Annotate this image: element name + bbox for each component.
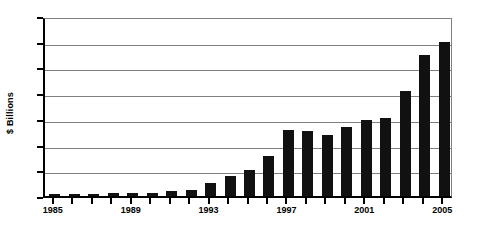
x-axis-tick-mark	[91, 198, 93, 204]
x-axis-tick-label: 1985	[31, 205, 75, 215]
x-axis-tick-mark	[149, 198, 151, 204]
bar	[341, 127, 352, 196]
x-axis-tick-mark	[52, 198, 54, 204]
x-axis-tick-mark	[285, 198, 287, 204]
bar	[283, 130, 294, 196]
x-axis-tick-mark	[383, 198, 385, 204]
x-axis-tick-mark	[227, 198, 229, 204]
x-axis-tick-label: 2005	[420, 205, 464, 215]
bar	[108, 193, 119, 196]
x-axis-tick-label: 1993	[187, 205, 231, 215]
x-axis-tick-mark	[188, 198, 190, 204]
bar	[419, 55, 430, 196]
x-axis-tick-label: 1997	[264, 205, 308, 215]
gridline	[45, 45, 451, 46]
x-axis-tick-mark	[363, 198, 365, 204]
plot-area	[43, 18, 452, 198]
x-axis-tick-mark	[422, 198, 424, 204]
bar	[205, 183, 216, 196]
x-axis-tick-mark	[71, 198, 73, 204]
bar	[147, 193, 158, 196]
bar	[69, 194, 80, 196]
x-axis-tick-label: 2001	[342, 205, 386, 215]
x-axis-tick-mark	[344, 198, 346, 204]
x-axis-tick-mark	[324, 198, 326, 204]
bar-chart: $ Billions 050100150200250300350 1985198…	[0, 0, 477, 227]
bar	[302, 131, 313, 196]
bar	[127, 193, 138, 196]
x-axis-tick-mark	[441, 198, 443, 204]
x-axis-tick-mark	[169, 198, 171, 204]
bar	[166, 191, 177, 196]
bar	[380, 118, 391, 196]
gridline	[45, 96, 451, 97]
y-axis-title-label: $ Billions	[5, 92, 15, 134]
gridline	[45, 70, 451, 71]
bar	[88, 194, 99, 196]
x-axis-tick-label: 1989	[109, 205, 153, 215]
bar	[186, 190, 197, 196]
x-axis-tick-mark	[247, 198, 249, 204]
bar	[322, 135, 333, 196]
x-axis-tick-mark	[402, 198, 404, 204]
bar	[400, 91, 411, 196]
bar	[244, 170, 255, 196]
x-axis-tick-mark	[110, 198, 112, 204]
bar	[263, 156, 274, 196]
bar	[361, 120, 372, 196]
y-axis-title: $ Billions	[2, 78, 18, 148]
bar	[49, 194, 60, 196]
x-axis-tick-mark	[266, 198, 268, 204]
x-axis-tick-mark	[130, 198, 132, 204]
bar	[225, 176, 236, 196]
bar	[439, 42, 450, 196]
x-axis-tick-mark	[208, 198, 210, 204]
x-axis-tick-mark	[305, 198, 307, 204]
